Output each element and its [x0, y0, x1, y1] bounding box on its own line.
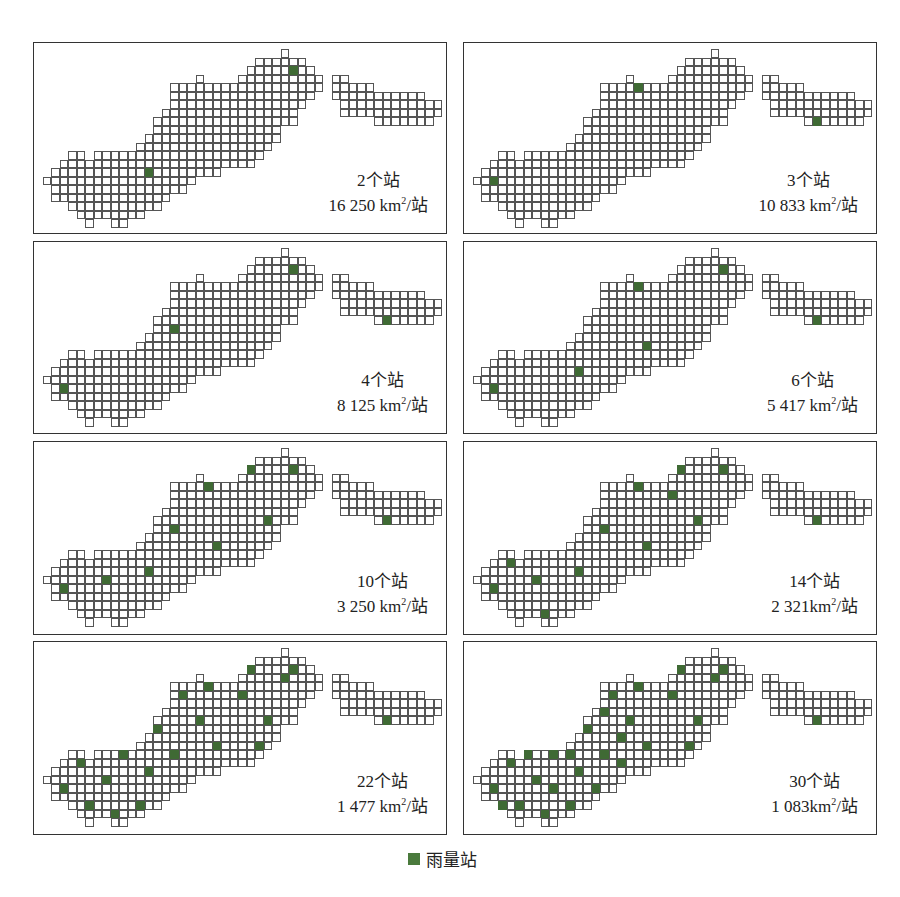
grid-cell — [289, 508, 298, 517]
grid-cell — [136, 202, 145, 211]
grid-cell — [94, 359, 103, 368]
grid-cell — [660, 533, 669, 542]
grid-cell — [238, 333, 247, 342]
grid-cell — [68, 376, 77, 385]
grid-cell — [719, 674, 728, 683]
grid-cell — [736, 691, 745, 700]
grid-cell — [196, 559, 205, 568]
grid-cell — [119, 194, 128, 203]
grid-cell — [85, 418, 94, 427]
grid-cell — [366, 308, 375, 317]
grid-cell — [179, 143, 188, 152]
grid-cell — [507, 750, 516, 759]
grid-cell — [85, 576, 94, 585]
grid-cell — [340, 299, 349, 308]
rain-gauge-station-cell — [600, 750, 609, 759]
grid-cell — [119, 367, 128, 376]
grid-cell — [660, 499, 669, 508]
grid-cell — [298, 665, 307, 674]
grid-cell — [796, 708, 805, 717]
grid-cell — [592, 593, 601, 602]
grid-cell — [651, 682, 660, 691]
grid-cell — [179, 376, 188, 385]
grid-cell — [111, 418, 120, 427]
grid-cell — [541, 376, 550, 385]
grid-cell — [609, 767, 618, 776]
grid-cell — [400, 299, 409, 308]
grid-cell — [507, 376, 516, 385]
grid-cell — [128, 801, 137, 810]
grid-cell — [204, 100, 213, 109]
grid-cell — [660, 117, 669, 126]
grid-cell — [213, 143, 222, 152]
grid-cell — [60, 177, 69, 186]
grid-cell — [609, 83, 618, 92]
grid-cell — [272, 691, 281, 700]
grid-cell — [634, 559, 643, 568]
grid-cell — [677, 533, 686, 542]
grid-cell — [575, 359, 584, 368]
grid-cell — [315, 83, 324, 92]
grid-cell — [498, 559, 507, 568]
grid-cell — [136, 742, 145, 751]
grid-cell — [609, 567, 618, 576]
grid-cell — [179, 567, 188, 576]
grid-cell — [119, 202, 128, 211]
grid-cell — [298, 691, 307, 700]
grid-cell — [187, 776, 196, 785]
grid-cell — [736, 92, 745, 101]
grid-cell — [541, 776, 550, 785]
grid-cell — [119, 550, 128, 559]
grid-cell — [566, 410, 575, 419]
rain-gauge-station-cell — [204, 482, 213, 491]
grid-cell — [111, 601, 120, 610]
grid-cell — [507, 593, 516, 602]
grid-cell — [558, 393, 567, 402]
grid-cell — [111, 567, 120, 576]
grid-cell — [847, 691, 856, 700]
grid-cell — [179, 308, 188, 317]
grid-cell — [498, 401, 507, 410]
grid-cell — [102, 801, 111, 810]
grid-cell — [196, 160, 205, 169]
grid-cell — [566, 742, 575, 751]
grid-cell — [592, 776, 601, 785]
grid-cell — [400, 516, 409, 525]
grid-cell — [838, 316, 847, 325]
grid-cell — [507, 350, 516, 359]
grid-cell — [711, 58, 720, 67]
grid-cell — [685, 691, 694, 700]
grid-cell — [187, 83, 196, 92]
grid-cell — [702, 533, 711, 542]
grid-cell — [507, 567, 516, 576]
grid-cell — [136, 776, 145, 785]
grid-cell — [711, 83, 720, 92]
grid-cell — [162, 117, 171, 126]
grid-cell — [340, 274, 349, 283]
grid-cell — [213, 92, 222, 101]
grid-cell — [702, 58, 711, 67]
grid-cell — [77, 610, 86, 619]
grid-cell — [145, 350, 154, 359]
grid-cell — [549, 211, 558, 220]
rain-gauge-station-cell — [204, 682, 213, 691]
grid-cell — [264, 742, 273, 751]
grid-cell — [77, 767, 86, 776]
grid-cell — [170, 126, 179, 135]
grid-cell — [230, 725, 239, 734]
grid-cell — [204, 143, 213, 152]
grid-cell — [626, 75, 635, 84]
grid-cell — [677, 308, 686, 317]
grid-cell — [145, 584, 154, 593]
grid-cell — [566, 767, 575, 776]
grid-cell — [524, 376, 533, 385]
grid-cell — [490, 185, 499, 194]
grid-cell — [196, 499, 205, 508]
grid-cell — [179, 784, 188, 793]
grid-cell — [128, 584, 137, 593]
grid-cell — [213, 499, 222, 508]
grid-cell — [651, 92, 660, 101]
rain-gauge-station-cell — [264, 716, 273, 725]
grid-cell — [136, 593, 145, 602]
grid-cell — [796, 92, 805, 101]
